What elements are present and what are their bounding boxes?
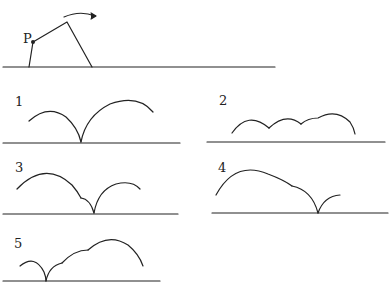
option-4-arc-b	[292, 186, 318, 213]
option-5-label: 5	[14, 237, 22, 250]
option-5-arc-b	[46, 263, 62, 281]
option-5-arc-c	[62, 250, 88, 263]
point-p-label: P	[23, 32, 32, 45]
quadrilateral-shape	[29, 22, 92, 67]
option-1-trajectory	[3, 100, 180, 143]
option-1-arc-a	[29, 111, 81, 142]
arrow-head-icon	[91, 13, 96, 19]
option-5-trajectory	[3, 240, 160, 281]
option-1-arc-b	[81, 100, 153, 142]
diagram-canvas	[0, 0, 392, 283]
option-3-label: 3	[15, 161, 23, 174]
option-1-label: 1	[15, 95, 23, 108]
option-3-arc-b	[81, 198, 94, 213]
option-4-arc-c	[318, 195, 340, 213]
option-3-trajectory	[3, 173, 178, 214]
option-3-arc-a	[17, 173, 81, 198]
option-2-label: 2	[219, 94, 227, 107]
option-4-arc-a	[216, 170, 292, 195]
option-4-label: 4	[218, 161, 226, 174]
option-2-arc-b	[269, 119, 301, 128]
option-3-arc-c	[94, 183, 140, 213]
rotation-arrow-arc	[64, 13, 95, 17]
rolling-quadrilateral-figure	[3, 13, 275, 67]
option-5-arc-d	[88, 240, 143, 266]
option-2-arc-c	[301, 114, 355, 134]
option-4-trajectory	[212, 170, 388, 213]
option-2-trajectory	[207, 114, 385, 142]
option-2-arc-a	[232, 120, 269, 133]
option-5-arc-a	[20, 261, 46, 281]
